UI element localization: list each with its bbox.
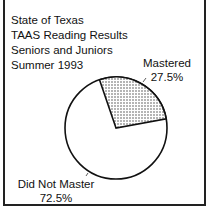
label-did-not-master-name: Did Not Master xyxy=(16,177,96,191)
label-did-not-master-value: 72.5% xyxy=(16,191,96,205)
label-mastered-value: 27.5% xyxy=(143,70,191,84)
did-not-master-leader-line xyxy=(86,173,88,176)
label-did-not-master: Did Not Master 72.5% xyxy=(16,177,96,205)
label-mastered: Mastered 27.5% xyxy=(143,56,191,84)
label-mastered-name: Mastered xyxy=(143,56,191,70)
